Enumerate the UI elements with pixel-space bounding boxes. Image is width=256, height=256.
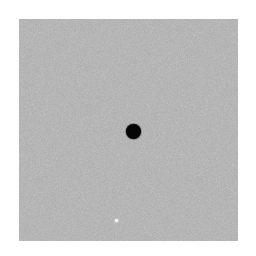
white-speck [115, 219, 118, 222]
image-canvas [0, 0, 256, 256]
black-dot [126, 124, 141, 139]
